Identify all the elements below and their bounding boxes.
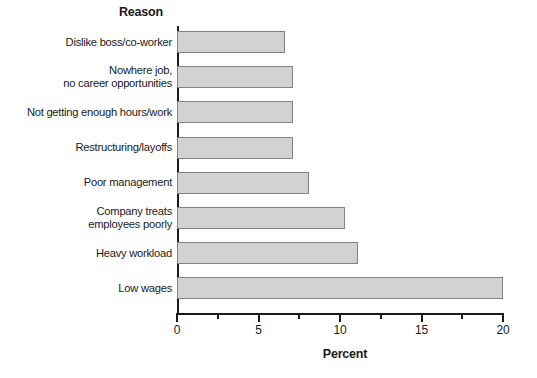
category-label: Low wages — [4, 282, 172, 295]
bar-row — [177, 277, 503, 299]
x-axis-tick-label: 5 — [239, 323, 279, 337]
category-label: Not getting enough hours/work — [4, 106, 172, 119]
bar — [177, 207, 345, 229]
x-axis-tick-label: 10 — [320, 323, 360, 337]
bar — [177, 31, 285, 53]
category-label: Nowhere job, no career opportunities — [4, 64, 172, 90]
bar — [177, 242, 358, 264]
category-label: Dislike boss/co-worker — [4, 36, 172, 49]
bar — [177, 66, 293, 88]
bar-row — [177, 172, 503, 194]
chart-title: Reason — [106, 5, 176, 19]
x-axis-tick-major — [339, 313, 341, 322]
category-labels: Dislike boss/co-workerNowhere job, no ca… — [0, 26, 172, 315]
bar — [177, 172, 309, 194]
bar-row — [177, 66, 503, 88]
x-axis-tick-label: 0 — [157, 323, 197, 337]
x-axis-tick-major — [176, 313, 178, 322]
x-axis-tick-label: 20 — [483, 323, 523, 337]
x-axis-tick-minor — [380, 313, 382, 319]
category-label: Company treats employees poorly — [4, 205, 172, 231]
x-axis-tick-major — [502, 313, 504, 322]
category-label: Poor management — [4, 176, 172, 189]
bar-row — [177, 31, 503, 53]
category-label: Restructuring/layoffs — [4, 141, 172, 154]
x-axis-tick-minor — [461, 313, 463, 319]
category-label: Heavy workload — [4, 247, 172, 260]
bar — [177, 137, 293, 159]
bar — [177, 101, 293, 123]
x-axis-tick-label: 15 — [402, 323, 442, 337]
bar-chart: Reason Dislike boss/co-workerNowhere job… — [0, 0, 537, 378]
bar-row — [177, 101, 503, 123]
bar-row — [177, 207, 503, 229]
bar — [177, 277, 503, 299]
bar-row — [177, 137, 503, 159]
x-axis-title: Percent — [300, 347, 390, 361]
bar-row — [177, 242, 503, 264]
plot-area — [177, 26, 503, 313]
x-axis-tick-minor — [298, 313, 300, 319]
x-axis-tick-major — [258, 313, 260, 322]
x-axis-tick-minor — [217, 313, 219, 319]
x-axis-tick-major — [421, 313, 423, 322]
